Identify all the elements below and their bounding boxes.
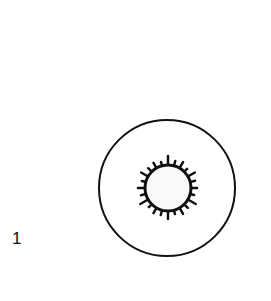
inner-circle — [145, 165, 191, 211]
circle-diagram — [0, 0, 271, 301]
